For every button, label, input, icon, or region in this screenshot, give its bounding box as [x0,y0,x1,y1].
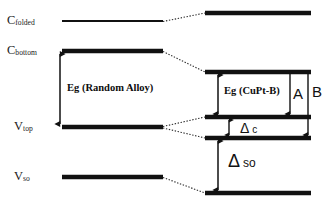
level-label-v-so: Vso [14,170,30,183]
label-transition-b: B [312,84,322,99]
connector-c-folded [163,13,205,22]
connector-v-top-lower [163,128,205,138]
level-label-c-folded: Cfolded [7,14,35,27]
v-so-subscript: so [23,174,30,183]
connector-v-so [163,178,205,194]
delta-so-symbol: Δ [228,151,240,171]
level-label-v-top: Vtop [14,120,33,133]
label-eg-cupt-b: Eg (CuPt-B) [224,86,280,97]
band-diagram-svg [0,0,329,205]
delta-so-subscript: so [243,156,256,170]
label-delta-so: Δso [228,152,256,170]
label-eg-random-alloy: Eg (Random Alloy) [67,83,153,94]
figure-canvas: Cfolded Cbottom Vtop Vso Eg (Random Allo… [0,0,329,205]
v-top-symbol: V [14,119,23,133]
delta-c-subscript: c [252,124,257,135]
delta-c-symbol: Δ [240,120,249,136]
connector-c-bottom [163,52,205,73]
v-top-subscript: top [23,124,33,133]
label-transition-a: A [293,86,303,101]
c-bottom-subscript: bottom [15,48,37,57]
label-delta-c: Δc [240,120,257,136]
c-folded-subscript: folded [15,18,34,27]
v-so-symbol: V [14,169,23,183]
connector-v-top-upper [163,117,205,127]
level-label-c-bottom: Cbottom [7,44,37,57]
